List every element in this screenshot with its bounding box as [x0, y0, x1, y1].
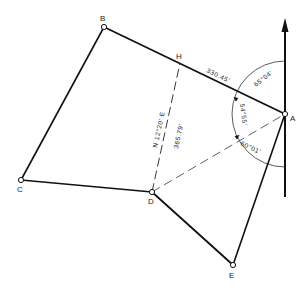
angle-tick-1 — [234, 97, 238, 101]
line-BC — [21, 27, 104, 180]
label-C: C — [17, 185, 23, 194]
line-CD — [21, 180, 152, 192]
label-A: A — [290, 114, 296, 123]
label-E: E — [229, 271, 234, 280]
point-B — [101, 24, 106, 29]
angle-north-AB: 65°04' — [252, 69, 274, 88]
point-C — [18, 177, 23, 182]
line-AE — [233, 114, 285, 265]
angle-AB-AD: 54°55' — [239, 103, 249, 126]
bearing-DH: N 12°20' E — [151, 111, 166, 149]
survey-diagram: A B C D E H 330.45' N 12°20' E 365.79' 6… — [0, 0, 305, 296]
north-arrowhead-icon — [282, 18, 289, 32]
label-D: D — [148, 197, 154, 206]
point-E — [230, 262, 235, 267]
label-B: B — [100, 14, 105, 23]
line-DE — [152, 192, 233, 265]
point-D — [149, 189, 154, 194]
point-A — [282, 111, 287, 116]
line-AB — [104, 27, 285, 114]
distance-DH: 365.79' — [172, 123, 184, 149]
label-H: H — [176, 52, 182, 61]
angle-AD-AE: 60°01' — [240, 140, 263, 156]
line-DA-dashed — [152, 114, 285, 192]
angle-tick-2 — [235, 135, 239, 139]
